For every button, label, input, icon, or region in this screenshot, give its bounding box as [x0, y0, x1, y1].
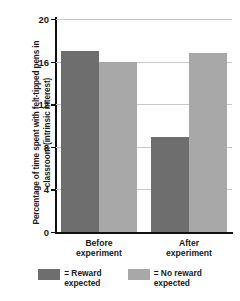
chart-legend: = Reward expected= No reward expected: [0, 268, 240, 288]
y-axis-tick-label: 12: [38, 99, 49, 110]
y-axis-tick-label: 8: [44, 141, 49, 152]
y-axis-tick: [51, 232, 55, 233]
legend-item: = Reward expected: [38, 268, 101, 288]
gridline: [56, 19, 232, 20]
bar: [99, 62, 137, 232]
y-axis-tick: [51, 189, 55, 190]
bar-chart-figure: Percentage of time spent with felt-tippe…: [0, 0, 240, 301]
x-axis-category-label: Before experiment: [51, 238, 147, 259]
bar: [189, 53, 227, 232]
x-axis-category-label: After experiment: [141, 238, 237, 259]
y-axis-tick: [51, 62, 55, 63]
y-axis-tick-label: 4: [44, 184, 49, 195]
y-axis-tick: [51, 104, 55, 105]
y-axis-tick: [51, 147, 55, 148]
bar: [151, 137, 189, 232]
x-axis-line: [55, 232, 233, 234]
y-axis-tick-label: 16: [38, 56, 49, 67]
legend-swatch: [128, 269, 150, 280]
legend-item: = No reward expected: [128, 268, 202, 288]
y-axis-tick: [51, 19, 55, 20]
bar: [61, 51, 99, 232]
legend-swatch: [38, 269, 60, 280]
legend-label: = Reward expected: [64, 268, 101, 288]
plot-area: 048121620: [56, 19, 232, 232]
y-axis-tick-label: 20: [38, 14, 49, 25]
y-axis-tick-label: 0: [44, 227, 49, 238]
legend-label: = No reward expected: [154, 268, 202, 288]
